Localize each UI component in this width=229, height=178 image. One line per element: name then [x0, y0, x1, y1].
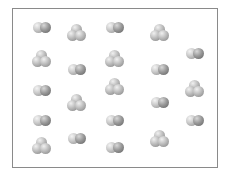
atom-sphere-icon — [40, 143, 51, 154]
atom-sphere-icon — [113, 142, 124, 153]
atom-sphere-icon — [40, 22, 51, 33]
atom-sphere-icon — [40, 115, 51, 126]
atom-sphere-icon — [40, 56, 51, 67]
atom-sphere-icon — [193, 86, 204, 97]
atom-sphere-icon — [40, 85, 51, 96]
atom-sphere-icon — [158, 64, 169, 75]
atom-sphere-icon — [113, 22, 124, 33]
atom-sphere-icon — [75, 133, 86, 144]
atom-sphere-icon — [113, 56, 124, 67]
atom-sphere-icon — [113, 115, 124, 126]
atom-sphere-icon — [75, 30, 86, 41]
atom-sphere-icon — [75, 64, 86, 75]
atom-sphere-icon — [75, 100, 86, 111]
atom-sphere-icon — [113, 84, 124, 95]
atom-sphere-icon — [193, 115, 204, 126]
atom-sphere-icon — [158, 136, 169, 147]
atom-sphere-icon — [158, 97, 169, 108]
atom-sphere-icon — [193, 48, 204, 59]
atom-sphere-icon — [158, 30, 169, 41]
